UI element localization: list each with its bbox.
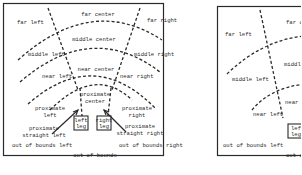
- right-panel-far-middle-arc: [227, 36, 301, 74]
- label-proximate-left-1: proximate: [35, 105, 65, 112]
- rp-label-far-center: far c: [286, 19, 301, 26]
- label-middle-right: middle right: [134, 51, 174, 58]
- label-near-left: near left: [42, 73, 72, 80]
- rp-label-near-center: near: [285, 99, 298, 106]
- label-near-right: near right: [120, 73, 154, 80]
- right-panel-radial-divider: [260, 10, 283, 118]
- label-proximate-straight-left-2: straight left: [22, 132, 66, 139]
- label-far-right: far right: [147, 17, 177, 24]
- label-proximate-center-1: proximate: [80, 91, 110, 98]
- label-proximate-straight-right-1: proximate: [125, 123, 155, 130]
- label-right-leg-2: leg: [99, 123, 109, 130]
- label-middle-center: middle center: [72, 36, 116, 43]
- label-left-leg-2: leg: [76, 123, 86, 130]
- rp-label-far-left: far left: [225, 31, 252, 38]
- label-far-left: far left: [17, 19, 44, 26]
- label-out-of-bounds-left: out of bounds left: [12, 142, 72, 149]
- label-middle-left: middle left: [28, 51, 65, 58]
- label-proximate-left-2: left: [43, 112, 56, 119]
- rp-label-middle-left: middle left: [232, 76, 269, 83]
- diagram-canvas: far left far center far right middle cen…: [0, 0, 301, 175]
- label-proximate-center-2: center: [85, 98, 105, 105]
- rp-label-out-of-bounds-left: out of bounds left: [223, 142, 283, 149]
- rp-label-middle-center: middl: [284, 61, 301, 68]
- rp-label-left-leg-2: leg: [291, 131, 301, 138]
- label-proximate-right-1: proximate: [122, 105, 152, 112]
- label-proximate-right-2: right: [129, 112, 146, 119]
- label-out-of-bounds-right: out of bounds right: [119, 142, 183, 149]
- label-out-of-bounds: out of bounds: [73, 152, 117, 159]
- rp-label-near-left: near left: [253, 111, 283, 118]
- label-proximate-straight-right-2: straight right: [117, 130, 164, 137]
- label-far-center: far center: [81, 11, 115, 18]
- right-panel: far left far c middl middle left near le…: [218, 7, 302, 160]
- rp-label-out-of-bounds: out o: [286, 152, 301, 159]
- left-panel: far left far center far right middle cen…: [4, 4, 183, 160]
- label-near-center: near center: [78, 66, 115, 73]
- label-proximate-straight-left-1: proximate: [29, 125, 59, 132]
